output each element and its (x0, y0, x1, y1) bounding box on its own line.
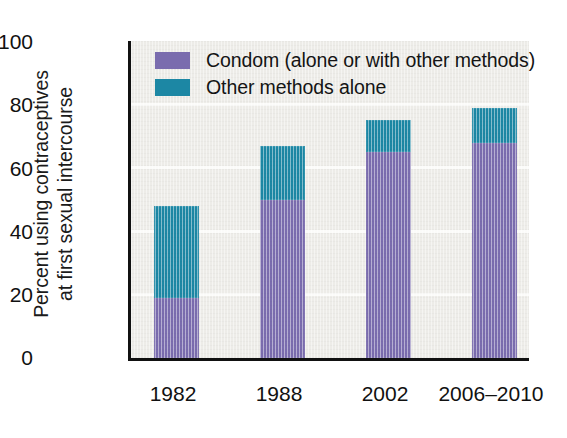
y-axis-title: Percent using contraceptives at first se… (25, 19, 81, 369)
y-tick-label-80: 80 (0, 93, 33, 117)
bar-2002[interactable] (366, 120, 411, 358)
y-tick-label-40: 40 (0, 220, 33, 244)
condom-swatch-icon (155, 52, 190, 69)
bar-2006-2010-segment-other[interactable] (472, 108, 517, 143)
bar-1988[interactable] (260, 146, 305, 358)
y-tick-label-100: 100 (0, 30, 33, 54)
bar-1982[interactable] (154, 206, 199, 358)
legend: Condom (alone or with other methods) Oth… (155, 48, 535, 102)
gridline-60 (131, 166, 529, 169)
gridline-80 (131, 103, 529, 106)
bar-2006-2010-segment-condom[interactable] (472, 143, 517, 358)
bar-1982-segment-condom[interactable] (154, 298, 199, 358)
x-tick-label-2002: 2002 (362, 382, 409, 406)
other-swatch-icon (155, 79, 190, 96)
x-tick-label-2006-2010: 2006–2010 (438, 382, 543, 406)
x-tick-label-1982: 1982 (150, 382, 197, 406)
y-tick-label-60: 60 (0, 157, 33, 181)
legend-item-other[interactable]: Other methods alone (155, 75, 535, 100)
y-axis-title-line-2: at first sexual intercourse (53, 87, 77, 301)
legend-label-condom: Condom (alone or with other methods) (206, 49, 535, 72)
y-tick-label-0: 0 (0, 346, 33, 370)
legend-label-other: Other methods alone (206, 76, 386, 99)
bar-1982-segment-other[interactable] (154, 206, 199, 298)
bar-2002-segment-other[interactable] (366, 120, 411, 152)
plot-area: Condom (alone or with other methods) Oth… (128, 41, 529, 361)
bar-2002-segment-condom[interactable] (366, 152, 411, 358)
y-tick-label-20: 20 (0, 283, 33, 307)
bar-2006-2010[interactable] (472, 108, 517, 358)
bar-1988-segment-condom[interactable] (260, 200, 305, 358)
legend-item-condom[interactable]: Condom (alone or with other methods) (155, 48, 535, 73)
stacked-bar-chart-figure: Percent using contraceptives at first se… (0, 0, 567, 438)
x-tick-label-1988: 1988 (256, 382, 303, 406)
bar-1988-segment-other[interactable] (260, 146, 305, 200)
